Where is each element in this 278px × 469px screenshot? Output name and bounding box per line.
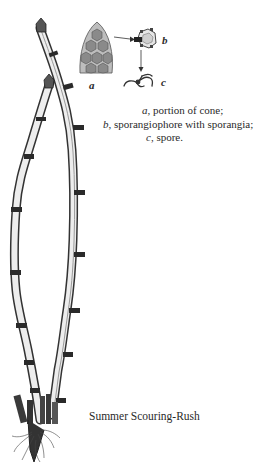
- inset-c-spore: [124, 75, 152, 87]
- inset-label-b: b: [162, 34, 168, 46]
- legend-text-c: , spore.: [151, 131, 183, 143]
- inset-label-a: a: [89, 79, 95, 91]
- legend-line-c: c, spore.: [100, 131, 278, 145]
- legend-text-a: , portion of cone;: [148, 104, 224, 116]
- figure-caption: Summer Scouring-Rush: [89, 410, 200, 422]
- arrow-a-to-b: [114, 37, 135, 43]
- short-stem: [10, 74, 54, 420]
- legend-line-a: a, portion of cone;: [100, 104, 278, 118]
- figure-legend: a, portion of cone; b, sporangiophore wi…: [100, 104, 278, 145]
- inset-b-sporangiophore: [134, 28, 156, 48]
- scouring-rush-illustration: [0, 0, 278, 469]
- legend-line-b: b, sporangiophore with sporangia;: [100, 118, 278, 132]
- inset-a-cone: [80, 22, 113, 73]
- inset-label-c: c: [161, 76, 166, 88]
- arrow-b-to-c: [139, 50, 144, 72]
- botanical-plate: a b c a, portion of cone; b, sporangioph…: [0, 0, 278, 469]
- tall-stem: [36, 18, 85, 417]
- legend-text-b: , sporangiophore with sporangia;: [109, 118, 254, 130]
